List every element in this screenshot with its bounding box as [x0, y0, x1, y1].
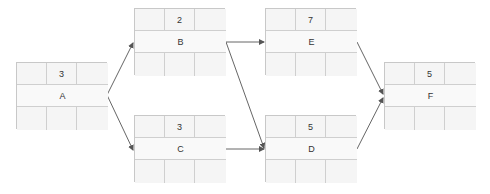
cell-float	[165, 160, 195, 183]
node-label: F	[385, 85, 476, 107]
node-duration: 5	[296, 116, 326, 138]
cell-ls	[266, 53, 296, 76]
cell-ef	[445, 63, 476, 85]
node-duration: 3	[47, 63, 77, 85]
cell-lf	[77, 107, 108, 130]
cell-lf	[195, 160, 226, 183]
node-d: 5 D	[265, 115, 356, 182]
node-duration: 3	[165, 116, 195, 138]
node-label: B	[135, 31, 226, 53]
cell-lf	[326, 160, 357, 183]
edge-d-f	[357, 98, 383, 149]
cell-float	[165, 53, 195, 76]
cell-es	[266, 9, 296, 31]
cell-ls	[385, 107, 415, 130]
node-b: 2 B	[134, 8, 225, 75]
cell-float	[296, 53, 326, 76]
edge-b-d	[226, 42, 264, 148]
cell-es	[385, 63, 415, 85]
node-duration: 2	[165, 9, 195, 31]
node-label: C	[135, 138, 226, 160]
node-label: A	[17, 85, 108, 107]
node-c: 3 C	[134, 115, 225, 182]
cell-ls	[135, 53, 165, 76]
node-label: E	[266, 31, 357, 53]
cell-lf	[326, 53, 357, 76]
cell-ef	[326, 9, 357, 31]
cell-float	[415, 107, 445, 130]
cell-ef	[77, 63, 108, 85]
edge-a-b	[107, 43, 133, 95]
cell-float	[296, 160, 326, 183]
node-e: 7 E	[265, 8, 356, 75]
cell-ls	[17, 107, 47, 130]
cell-lf	[445, 107, 476, 130]
cell-ef	[195, 9, 226, 31]
node-a: 3 A	[16, 62, 107, 129]
cell-es	[135, 116, 165, 138]
cell-es	[17, 63, 47, 85]
node-duration: 5	[415, 63, 445, 85]
cell-ef	[195, 116, 226, 138]
cell-ef	[326, 116, 357, 138]
cell-float	[47, 107, 77, 130]
cell-es	[135, 9, 165, 31]
node-label: D	[266, 138, 357, 160]
node-f: 5 F	[384, 62, 475, 129]
cell-ls	[266, 160, 296, 183]
edge-a-c	[107, 95, 133, 150]
cell-lf	[195, 53, 226, 76]
cell-es	[266, 116, 296, 138]
node-duration: 7	[296, 9, 326, 31]
edge-e-f	[357, 42, 383, 94]
cell-ls	[135, 160, 165, 183]
